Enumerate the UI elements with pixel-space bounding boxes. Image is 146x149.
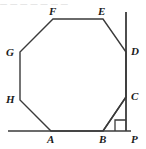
vertex-label-e: E (98, 6, 105, 17)
vertex-label-g: G (6, 47, 14, 58)
vertex-label-p: P (131, 134, 138, 145)
geometry-figure: — — — — — — — A B C D E F G H P (0, 0, 146, 149)
vertex-label-a: A (47, 134, 54, 145)
octagon-shape (20, 19, 126, 131)
vertex-label-d: D (131, 46, 139, 57)
vertex-label-h: H (6, 94, 15, 105)
vertex-label-f: F (49, 6, 56, 17)
vertex-label-c: C (131, 91, 138, 102)
vertex-label-b: B (99, 134, 106, 145)
right-angle-mark-icon (115, 120, 126, 131)
octagon-diagram-canvas (0, 0, 146, 149)
